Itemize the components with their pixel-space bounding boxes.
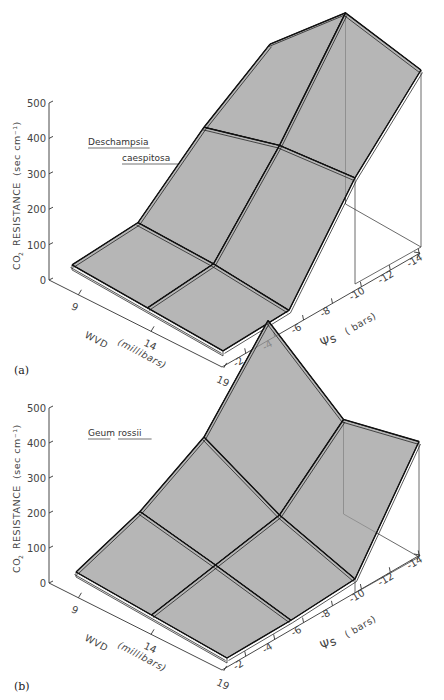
z-tick: [49, 278, 53, 280]
z-tick-label: 500: [27, 98, 46, 109]
z-axis-label: CO2RESISTANCE(sec cm⁻¹): [11, 121, 24, 270]
z-tick-label: 200: [27, 508, 46, 519]
svg-text:RESISTANCE: RESISTANCE: [11, 485, 22, 549]
psi-tick-label: -8: [318, 607, 332, 622]
z-tick: [49, 546, 53, 548]
z-tick: [49, 476, 53, 478]
psi-tick-label: -10: [347, 285, 367, 303]
psi-tick-label: -12: [376, 570, 396, 588]
species-title: caespitosa: [122, 153, 170, 163]
psi-axis-units: ( bars): [343, 310, 378, 337]
psi-axis-label: Ψs: [318, 634, 338, 653]
z-tick: [49, 406, 53, 408]
z-tick: [49, 101, 53, 103]
z-tick-label: 100: [27, 240, 46, 251]
psi-tick-label: -14: [405, 553, 425, 571]
panel-label: (a): [14, 364, 29, 377]
wvd-tick-label: 19: [215, 374, 231, 389]
psi-tick-label: -2: [231, 657, 245, 672]
svg-text:2: 2: [17, 252, 24, 256]
wvd-axis-label: WVD: [83, 632, 110, 653]
species-title: Deschampsia: [88, 137, 149, 147]
z-tick: [49, 136, 53, 138]
psi-axis-units: ( bars): [343, 613, 378, 640]
z-tick: [49, 581, 53, 583]
z-axis-label: CO2RESISTANCE(sec cm⁻¹): [11, 424, 24, 573]
wvd-axis-units: (millibars): [116, 336, 168, 371]
panel-a-surface-plot: 0100200300400500CO2RESISTANCE(sec cm⁻¹)9…: [11, 13, 424, 389]
svg-text:(sec cm⁻¹): (sec cm⁻¹): [11, 424, 22, 479]
z-tick: [49, 207, 53, 209]
psi-tick-label: -4: [260, 641, 274, 656]
z-tick-label: 100: [27, 543, 46, 554]
z-tick: [49, 243, 53, 245]
species-title: rossii: [118, 428, 141, 438]
svg-text:2: 2: [17, 555, 24, 559]
z-tick-label: 0: [40, 578, 46, 589]
z-tick-label: 0: [40, 275, 46, 286]
svg-text:(sec cm⁻¹): (sec cm⁻¹): [11, 121, 22, 176]
svg-text:CO: CO: [11, 558, 22, 573]
psi-tick-label: -8: [318, 305, 332, 320]
wvd-tick-label: 9: [70, 604, 80, 617]
panel-label: (b): [14, 680, 30, 693]
figure: 0100200300400500CO2RESISTANCE(sec cm⁻¹)9…: [0, 0, 444, 700]
psi-tick-label: -6: [289, 321, 303, 336]
wvd-tick-label: 19: [215, 677, 231, 692]
psi-axis-label: Ψs: [318, 331, 338, 350]
wvd-axis-label: WVD: [83, 329, 110, 350]
z-tick-label: 300: [27, 473, 46, 484]
z-tick-label: 200: [27, 204, 46, 215]
z-tick: [49, 511, 53, 513]
species-title: Geum: [88, 428, 115, 438]
wvd-axis-units: (millibars): [116, 639, 168, 674]
psi-tick-label: -6: [289, 624, 303, 639]
z-tick: [49, 441, 53, 443]
z-tick: [49, 172, 53, 174]
svg-text:RESISTANCE: RESISTANCE: [11, 182, 22, 246]
z-tick-label: 500: [27, 403, 46, 414]
psi-tick-label: -10: [347, 587, 367, 605]
z-tick-label: 300: [27, 169, 46, 180]
z-tick-label: 400: [27, 133, 46, 144]
svg-text:CO: CO: [11, 255, 22, 270]
z-tick-label: 400: [27, 438, 46, 449]
wvd-tick-label: 9: [70, 301, 80, 314]
